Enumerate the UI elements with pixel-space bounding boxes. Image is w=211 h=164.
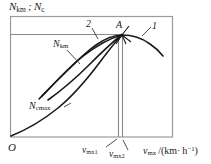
y-axis-label: Nkm ; Nc xyxy=(9,1,45,13)
x-axis-label: vmx /(km· h−1) xyxy=(143,146,198,157)
x-tick-label-vmx1: vmx1 xyxy=(82,146,98,156)
leader-line-curve2 xyxy=(92,28,98,39)
point-a-tick-e xyxy=(122,26,129,35)
curve-2-label: 2 xyxy=(86,19,91,29)
leader-line-curve1 xyxy=(142,27,151,36)
point-a-label: A xyxy=(116,20,122,30)
figure-container: Nkm ; Nc vmx /(km· h−1) vmx1 vmx2 O 1 2 … xyxy=(0,0,211,164)
curve-nkm-label: Nkm xyxy=(53,39,68,50)
figure-plot xyxy=(0,0,211,164)
curve-ncmax-label: Ncmax xyxy=(29,101,50,112)
leader-line-ncmax xyxy=(64,103,71,107)
origin-label: O xyxy=(8,142,16,153)
leader-line-vmx1 xyxy=(106,139,117,147)
leader-line-nkm xyxy=(67,50,80,64)
leader-line-vmx2 xyxy=(123,140,128,150)
x-tick-label-vmx2: vmx2 xyxy=(109,150,125,160)
curve-1-label: 1 xyxy=(152,21,157,31)
